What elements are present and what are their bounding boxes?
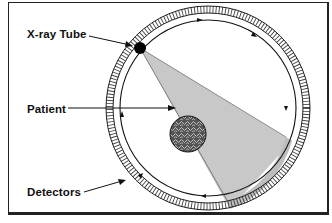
xray-tube [134,42,146,54]
xray-beam [140,48,292,209]
arrow-icon [197,18,203,22]
arrow-icon [201,194,206,198]
arrow-icon [284,106,288,111]
patient-label: Patient [27,103,66,115]
detectors-label: Detectors [27,186,81,198]
patient [170,116,206,152]
xray-tube-label: X-ray Tube [27,28,87,40]
